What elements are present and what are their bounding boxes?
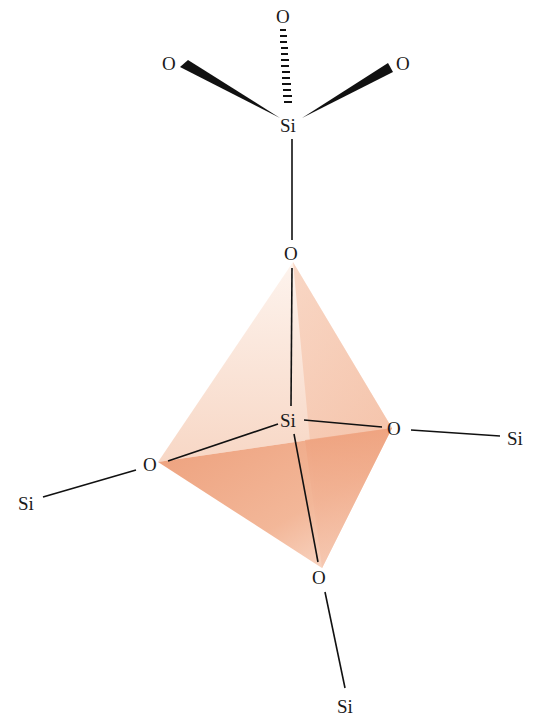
atom-o-bottom: O <box>312 567 326 588</box>
atom-o-bridge: O <box>284 243 298 264</box>
atom-o-upper-right: O <box>396 53 410 74</box>
solid-wedge-bond-right <box>302 63 393 118</box>
atom-o-right: O <box>387 418 401 439</box>
atom-o-left: O <box>143 454 157 475</box>
atom-o-top: O <box>276 6 290 27</box>
hashed-wedge-bond <box>280 30 292 102</box>
atom-o-upper-left: O <box>162 53 176 74</box>
solid-wedge-bond-left <box>180 60 280 118</box>
atom-si-left: Si <box>18 493 34 514</box>
atom-si-bottom: Si <box>337 696 353 717</box>
atom-si-center: Si <box>280 410 296 431</box>
silicate-diagram: O O O Si O Si O Si O Si O Si <box>0 0 540 728</box>
tetrahedron <box>158 262 392 568</box>
atom-si-right: Si <box>507 428 523 449</box>
atom-si-top: Si <box>280 115 296 136</box>
